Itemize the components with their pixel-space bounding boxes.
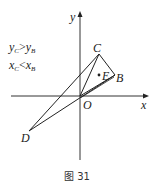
point-e <box>98 74 101 77</box>
triangle-ocb <box>80 54 115 96</box>
x-axis-label: x <box>140 98 147 112</box>
coordinate-diagram: y x O C B E D yC>yB xC<xB 图 31 <box>0 0 156 187</box>
y-axis-arrow-icon <box>78 11 83 17</box>
point-e-label: E <box>101 69 110 83</box>
condition-x: xC<xB <box>8 58 36 73</box>
y-axis-label: y <box>69 10 76 24</box>
origin-label: O <box>83 98 92 112</box>
point-b-label: B <box>116 71 124 85</box>
figure-caption: 图 31 <box>64 171 90 182</box>
condition-y: yC>yB <box>8 40 36 55</box>
point-d-label: D <box>20 131 30 145</box>
point-c-label: C <box>93 41 102 55</box>
